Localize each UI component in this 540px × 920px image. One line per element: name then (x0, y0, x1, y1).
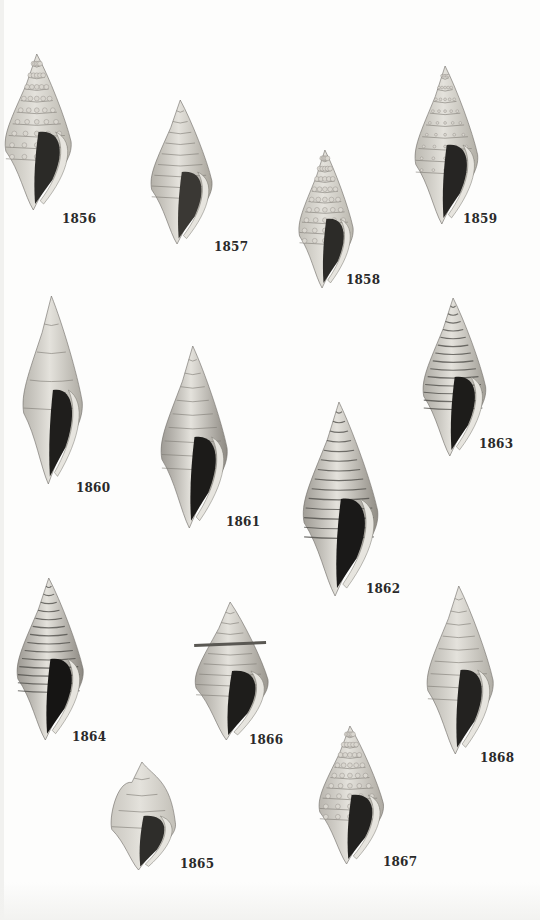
specimen-label: 1861 (226, 515, 260, 529)
specimen-label: 1866 (249, 733, 283, 747)
specimen-label: 1856 (62, 212, 96, 226)
specimen-label: 1868 (480, 751, 514, 765)
specimen-label: 1860 (76, 481, 110, 495)
specimen-1857 (150, 98, 222, 246)
shell-icon (318, 724, 394, 866)
specimen-label: 1862 (366, 582, 400, 596)
shell-plate: 1856 1857 1858 1859 1860 1861 (0, 0, 540, 920)
shell-icon (298, 148, 362, 290)
shell-icon (150, 98, 222, 246)
specimen-1866 (194, 600, 280, 742)
specimen-1867 (318, 724, 394, 866)
specimen-label: 1858 (346, 273, 380, 287)
specimen-1861 (160, 344, 238, 530)
shell-icon (426, 584, 504, 756)
specimen-1863 (422, 296, 496, 458)
specimen-label: 1859 (463, 212, 497, 226)
shell-icon (4, 52, 82, 212)
specimen-1856 (4, 52, 82, 212)
specimen-label: 1867 (383, 855, 417, 869)
specimen-1860 (22, 294, 92, 486)
shell-icon (194, 600, 280, 742)
shell-icon (16, 576, 94, 742)
bottom-shadow (0, 882, 540, 920)
specimen-1859 (414, 64, 488, 226)
shell-icon (160, 344, 238, 530)
specimen-1864 (16, 576, 94, 742)
specimen-1868 (426, 584, 504, 756)
shell-icon (302, 400, 390, 598)
shell-icon (110, 760, 186, 872)
shell-icon (22, 294, 92, 486)
specimen-label: 1863 (479, 437, 513, 451)
specimen-label: 1857 (214, 240, 248, 254)
shell-icon (414, 64, 488, 226)
shell-icon (422, 296, 496, 458)
specimen-1865 (110, 760, 186, 872)
specimen-1862 (302, 400, 390, 598)
specimen-label: 1865 (180, 857, 214, 871)
specimen-1858 (298, 148, 362, 290)
specimen-label: 1864 (72, 730, 106, 744)
